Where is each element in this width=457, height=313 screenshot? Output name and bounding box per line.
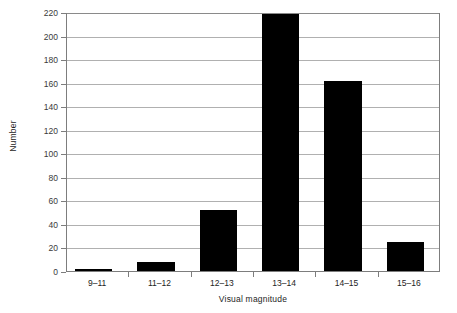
x-tick-label: 14–15	[315, 278, 377, 288]
y-tick-label: 200	[18, 32, 58, 42]
x-tick-mark	[315, 272, 316, 277]
plot-area	[66, 13, 440, 272]
y-tick-label: 40	[18, 220, 58, 230]
x-tick-label: 12–13	[191, 278, 253, 288]
x-axis-tick-labels: 9–1111–1212–1313–1414–1515–16	[66, 278, 440, 292]
x-tick-mark	[253, 272, 254, 277]
y-tick-label: 180	[18, 55, 58, 65]
y-tick-label: 60	[18, 196, 58, 206]
x-tick-label: 11–12	[128, 278, 190, 288]
bar-chart-figure: Number 020406080100120140160180200220 9–…	[0, 0, 457, 313]
x-tick-mark	[191, 272, 192, 277]
x-tick-mark	[378, 272, 379, 277]
y-tick-label: 220	[18, 8, 58, 18]
y-tick-label: 0	[18, 267, 58, 277]
y-tick-label: 80	[18, 173, 58, 183]
y-tick-label: 140	[18, 102, 58, 112]
y-tick-label: 100	[18, 149, 58, 159]
bar	[137, 262, 174, 271]
x-tick-label: 15–16	[378, 278, 440, 288]
x-axis-title-label: Visual magnitude	[66, 294, 440, 304]
bar	[262, 14, 299, 271]
y-tick-label: 160	[18, 79, 58, 89]
bar	[324, 81, 361, 271]
x-tick-label: 13–14	[253, 278, 315, 288]
y-axis-title-label: Number	[8, 0, 18, 272]
bar	[200, 210, 237, 271]
bar	[75, 269, 112, 271]
bar	[387, 242, 424, 271]
x-tick-label: 9–11	[66, 278, 128, 288]
x-tick-mark	[128, 272, 129, 277]
y-tick-label: 120	[18, 126, 58, 136]
y-tick-label: 20	[18, 243, 58, 253]
bars-layer	[67, 13, 439, 271]
